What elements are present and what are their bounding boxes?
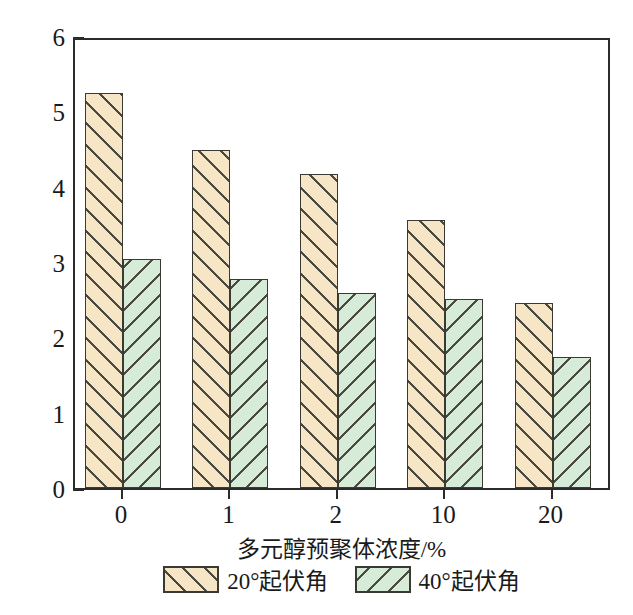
figure-canvas: 峰值滑动速度/(cm/s) 0123456 0121020 多元醇预聚体浓度/%… — [0, 0, 633, 615]
y-tick-label: 3 — [43, 251, 65, 276]
y-tick-label: 5 — [43, 100, 65, 125]
legend-item-series-b: 40°起伏角 — [355, 562, 520, 596]
bar-0-series-2 — [123, 259, 161, 488]
legend-swatch-20deg-icon — [163, 566, 219, 593]
bar-2-series-1 — [300, 174, 338, 488]
y-tick-label: 0 — [43, 477, 65, 502]
plot-area — [73, 38, 610, 490]
bar-1-series-2 — [230, 279, 268, 488]
legend-item-series-a: 20°起伏角 — [163, 562, 328, 596]
legend: 20°起伏角 40°起伏角 — [73, 562, 610, 596]
bar-2-series-2 — [338, 293, 376, 488]
y-tick-label: 2 — [43, 326, 65, 351]
bar-1-series-1 — [192, 150, 230, 488]
legend-label-40deg: 40°起伏角 — [419, 562, 520, 596]
x-tick-label: 10 — [408, 502, 478, 528]
x-tick-label: 2 — [301, 502, 371, 528]
legend-label-20deg: 20°起伏角 — [227, 562, 328, 596]
bar-0-series-1 — [85, 93, 123, 488]
x-tick — [443, 490, 445, 499]
y-tick-label: 6 — [43, 25, 65, 50]
bar-10-series-1 — [407, 220, 445, 488]
x-tick-label: 1 — [193, 502, 263, 528]
y-tick-label: 4 — [43, 176, 65, 201]
x-tick-label: 20 — [516, 502, 586, 528]
legend-swatch-40deg-icon — [355, 566, 411, 593]
bar-10-series-2 — [445, 299, 483, 488]
bar-20-series-2 — [553, 357, 591, 488]
x-tick-label: 0 — [86, 502, 156, 528]
x-tick — [551, 490, 553, 499]
bars-layer — [75, 40, 608, 488]
x-axis-label: 多元醇预聚体浓度/% — [73, 530, 610, 564]
x-tick — [228, 490, 230, 499]
y-tick-label: 1 — [43, 402, 65, 427]
x-tick — [121, 490, 123, 499]
x-tick — [336, 490, 338, 499]
bar-20-series-1 — [515, 303, 553, 488]
